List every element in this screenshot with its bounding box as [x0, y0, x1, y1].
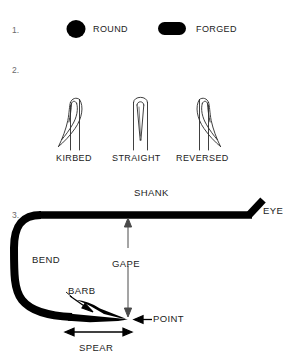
label-eye: EYE — [263, 206, 283, 216]
label-round: ROUND — [93, 25, 128, 34]
label-straight: STRAIGHT — [112, 154, 161, 163]
label-reversed: REVERSED — [176, 154, 229, 163]
hook-spear-point-shape — [68, 314, 128, 323]
section-1-icons — [0, 0, 293, 58]
hook-bend-segment — [14, 215, 72, 317]
point-leader-arrow — [134, 316, 152, 324]
kirbed-hook-point-icon — [59, 98, 83, 150]
straight-hook-point-icon — [134, 97, 148, 150]
hook-anatomy-figure: 1. ROUND FORGED 2. — [0, 0, 293, 361]
label-shank: SHANK — [134, 188, 169, 198]
label-bend: BEND — [32, 255, 60, 265]
label-point: POINT — [153, 314, 184, 324]
label-gape: GAPE — [112, 259, 140, 269]
label-barb: BARB — [68, 286, 95, 296]
reversed-hook-point-icon — [197, 98, 221, 150]
spear-dimension-arrow — [65, 328, 132, 336]
section-2-icons — [0, 66, 293, 166]
hook-anatomy-diagram — [0, 186, 293, 361]
label-spear: SPEAR — [79, 343, 113, 353]
forged-wire-cross-section-icon — [158, 22, 186, 35]
label-forged: FORGED — [196, 25, 237, 34]
label-kirbed: KIRBED — [56, 154, 92, 163]
round-wire-cross-section-icon — [67, 20, 86, 38]
